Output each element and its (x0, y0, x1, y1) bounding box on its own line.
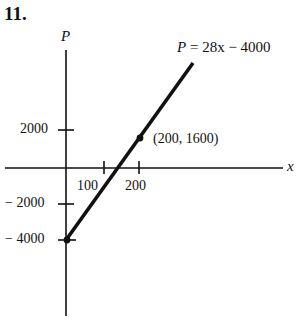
x-tick-label-100: 100 (77, 178, 98, 194)
point-200-1600 (137, 135, 144, 142)
p-axis-label: P (61, 28, 70, 45)
point-label: (200, 1600) (153, 131, 218, 147)
x-axis-label: x (287, 158, 294, 175)
line-series (66, 63, 193, 240)
p-tick-label-2000: 2000 (20, 121, 48, 137)
p-tick-label-neg4000: − 4000 (5, 231, 44, 247)
equation-p: P (177, 39, 186, 55)
equation-label: P = 28x − 4000 (177, 39, 271, 56)
x-tick-label-200: 200 (125, 178, 146, 194)
p-tick-label-neg2000: − 2000 (5, 195, 44, 211)
equation-rest: = 28x − 4000 (190, 39, 271, 55)
point-0-neg4000 (64, 237, 71, 244)
